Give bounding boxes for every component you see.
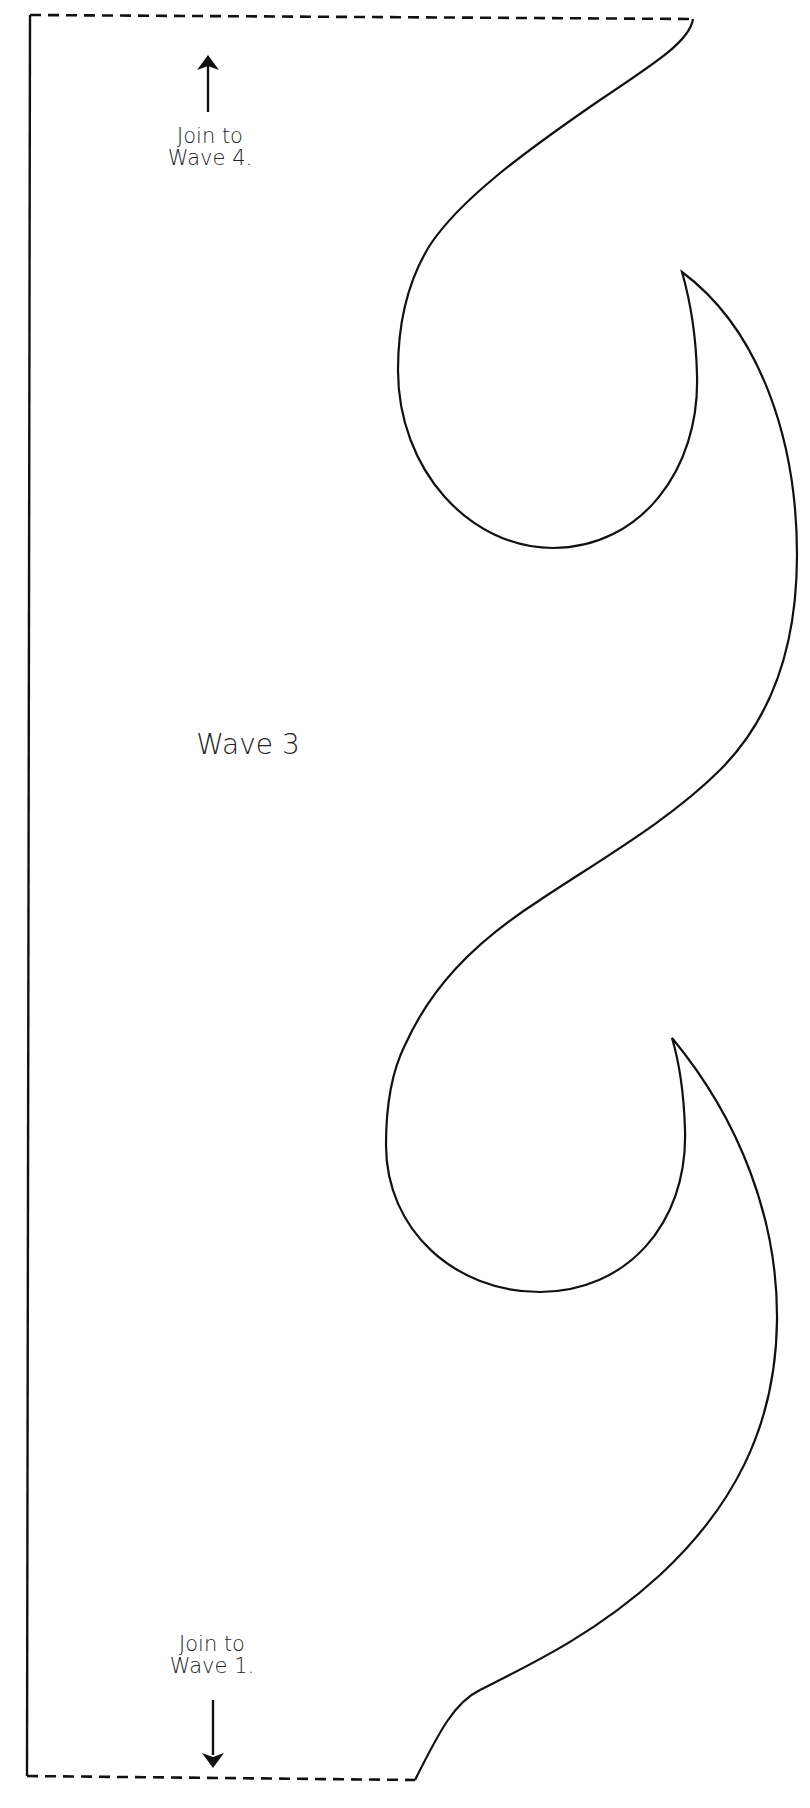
- top-join-edge: [30, 15, 693, 19]
- join-note-bottom: Join to Wave 1.: [152, 1633, 272, 1677]
- join-note-bottom-line2: Wave 1.: [152, 1655, 272, 1677]
- wave-pattern-piece: [0, 0, 810, 1808]
- left-fold-edge: [27, 15, 30, 1776]
- wave-outline: [386, 19, 797, 1780]
- arrow-down-icon: [202, 1700, 224, 1768]
- piece-title: Wave 3: [178, 730, 318, 759]
- join-note-top-line2: Wave 4.: [150, 147, 270, 169]
- bottom-join-edge: [27, 1776, 415, 1780]
- join-note-top-line1: Join to: [150, 125, 270, 147]
- join-note-bottom-line1: Join to: [152, 1633, 272, 1655]
- join-note-top: Join to Wave 4.: [150, 125, 270, 169]
- arrow-up-icon: [197, 55, 219, 112]
